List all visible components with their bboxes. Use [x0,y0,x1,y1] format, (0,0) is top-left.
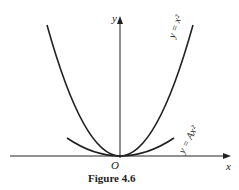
figure-caption: Figure 4.6 [88,172,135,184]
origin-label: O [111,159,119,171]
y-axis-label: y [112,12,117,24]
x-axis-label: x [226,160,231,172]
figure-diagram [0,0,239,190]
x-axis-arrow-icon [223,153,231,159]
y-axis-arrow-icon [117,16,123,24]
